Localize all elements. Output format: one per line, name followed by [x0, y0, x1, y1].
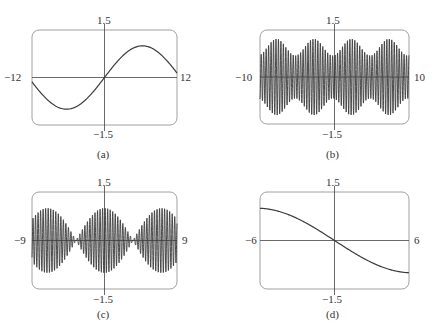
plot-panel-d: 1.5 −1.5 −6 6 (d)	[0, 0, 441, 335]
plot-d-canvas	[0, 0, 441, 335]
x-max-label-d: 6	[414, 234, 420, 246]
x-min-label-d: −6	[245, 234, 257, 246]
y-max-label-d: 1.5	[326, 176, 340, 188]
caption-d: (d)	[326, 308, 339, 320]
y-min-label-d: −1.5	[322, 293, 342, 305]
